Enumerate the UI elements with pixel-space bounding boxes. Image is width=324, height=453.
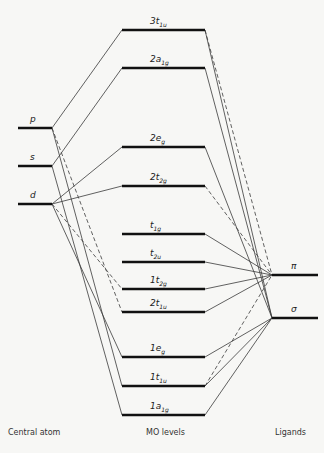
mo-level-label-t1g: t1g (150, 220, 161, 232)
central-atom-axis-label: Central atom (8, 428, 60, 437)
connection-1eg-sigma (205, 318, 272, 357)
connection-d-1t2g (52, 204, 122, 289)
central-orbital-label-d: d (30, 190, 36, 200)
connection-2t1u-pi (205, 275, 272, 312)
connection-3t1u-sigma (205, 30, 272, 318)
mo-level-label-2a1g: 2a1g (150, 54, 169, 66)
connection-s-1a1g (52, 166, 122, 415)
connection-3t1u-pi (205, 30, 272, 275)
ligand-orbital-label-pi: π (291, 261, 296, 271)
ligands-axis-label: Ligands (275, 428, 306, 437)
mo-level-label-2t2g: 2t2g (150, 172, 167, 184)
mo-level-label-2t1u: 2t1u (150, 298, 167, 310)
mo-level-label-1t1u: 1t1u (150, 372, 167, 384)
mo-level-label-1eg: 1eg (150, 343, 165, 355)
connection-1a1g-sigma (205, 318, 272, 415)
central-orbital-label-s: s (30, 152, 35, 162)
mo-level-label-1a1g: 1a1g (150, 401, 169, 413)
central-orbital-label-p: p (30, 114, 36, 124)
mo-level-label-t2u: t2u (150, 248, 161, 260)
mo-diagram-canvas (0, 0, 324, 453)
ligand-orbital-label-sigma: σ (291, 304, 297, 314)
connection-d-1eg (52, 204, 122, 357)
mo-level-label-3t1u: 3t1u (150, 16, 167, 28)
connection-s-2a1g (52, 68, 122, 166)
connection-p-1t1u (52, 128, 122, 386)
mo-level-label-2eg: 2eg (150, 133, 165, 145)
mo-level-label-1t2g: 1t2g (150, 275, 167, 287)
connection-2t2g-pi (205, 186, 272, 275)
mo-levels-axis-label: MO levels (146, 428, 185, 437)
connection-1t1u-sigma (205, 318, 272, 386)
connection-p-3t1u (52, 30, 122, 128)
energy-levels (18, 30, 318, 415)
